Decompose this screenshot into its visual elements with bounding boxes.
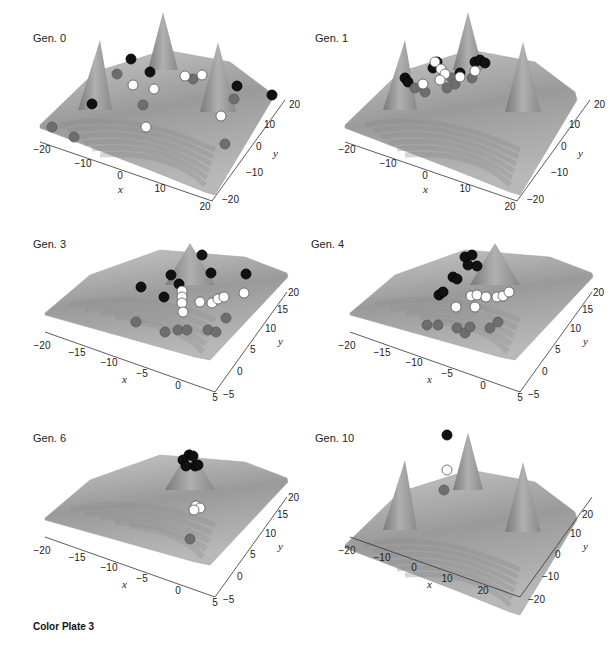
population-point [69, 132, 79, 142]
population-point [128, 80, 138, 90]
svg-text:20: 20 [504, 201, 516, 212]
population-point [480, 58, 490, 68]
surface-3d-chart: −20−15−10−505x−505101520y [0, 420, 305, 635]
svg-text:0: 0 [422, 170, 428, 181]
population-point [145, 67, 155, 77]
population-point [229, 94, 239, 104]
svg-text:5: 5 [517, 392, 523, 403]
peak-center [148, 12, 178, 70]
surface-plot-panel: −20−15−10−505x−505101520yGen. 6 [0, 420, 305, 630]
svg-text:−20: −20 [339, 340, 356, 351]
svg-text:0: 0 [175, 380, 181, 391]
y-axis-label: y [277, 335, 283, 347]
surface-plot-panel: −20−1001020x−20−1001020yGen. 10 [305, 420, 610, 630]
population-point [197, 250, 207, 260]
svg-text:−10: −10 [380, 158, 397, 169]
svg-text:15: 15 [277, 304, 289, 315]
population-point [267, 90, 277, 100]
population-point [465, 322, 475, 332]
svg-text:5: 5 [250, 549, 256, 560]
svg-text:5: 5 [250, 344, 256, 355]
svg-text:10: 10 [264, 119, 276, 130]
svg-text:−20: −20 [339, 545, 356, 556]
population-point [442, 465, 452, 475]
population-point [463, 260, 473, 270]
surface-3d-chart: −20−1001020x−20−1001020y [305, 420, 610, 635]
svg-text:20: 20 [288, 492, 300, 503]
population-point [470, 302, 480, 312]
svg-text:−5: −5 [223, 594, 235, 605]
population-point [472, 290, 482, 300]
population-point [467, 250, 477, 260]
generation-label: Gen. 3 [33, 238, 66, 250]
svg-text:−10: −10 [101, 357, 118, 368]
surface-plot-panel: −20−1001020x−20−1001020yGen. 1 [305, 0, 610, 210]
svg-text:20: 20 [289, 99, 301, 110]
svg-text:5: 5 [555, 344, 561, 355]
population-point [422, 320, 432, 330]
surface-3d-chart: −20−15−10−505x−505101520y [305, 215, 610, 430]
svg-text:−10: −10 [75, 158, 92, 169]
population-point [239, 288, 249, 298]
svg-text:0: 0 [480, 380, 486, 391]
svg-text:10: 10 [459, 183, 471, 194]
population-point [472, 261, 482, 271]
population-point [481, 292, 491, 302]
population-point [195, 297, 205, 307]
svg-text:15: 15 [582, 304, 594, 315]
x-axis-label: x [426, 578, 432, 590]
svg-text:5: 5 [212, 392, 218, 403]
population-point [193, 460, 203, 470]
svg-text:−10: −10 [406, 357, 423, 368]
population-point [451, 302, 461, 312]
x-axis-label: x [121, 373, 127, 385]
svg-text:−10: −10 [101, 562, 118, 573]
svg-text:0: 0 [555, 549, 561, 560]
generation-label: Gen. 6 [33, 432, 66, 444]
svg-text:−10: −10 [551, 167, 568, 178]
svg-text:−20: −20 [34, 340, 51, 351]
population-point [126, 54, 136, 64]
svg-text:−20: −20 [339, 144, 356, 155]
x-axis-label: x [117, 183, 123, 195]
svg-text:−20: −20 [34, 144, 51, 155]
population-point [455, 72, 465, 82]
population-point [181, 461, 191, 471]
population-point [173, 325, 183, 335]
svg-text:20: 20 [199, 201, 211, 212]
figure-caption: Color Plate 3 [33, 621, 94, 632]
population-point [241, 269, 251, 279]
population-point [160, 327, 170, 337]
svg-text:15: 15 [277, 509, 289, 520]
surface-plot-panel: −20−15−10−505x−505101520yGen. 4 [305, 215, 610, 425]
population-point [131, 317, 141, 327]
svg-text:10: 10 [265, 528, 277, 539]
population-point [439, 485, 449, 495]
population-point [442, 83, 452, 93]
svg-text:−15: −15 [374, 347, 391, 358]
x-axis-label: x [426, 373, 432, 385]
population-point [232, 81, 242, 91]
x-axis-label: x [121, 578, 127, 590]
svg-text:0: 0 [542, 366, 548, 377]
svg-text:0: 0 [561, 141, 567, 152]
population-point [219, 292, 229, 302]
population-point [166, 270, 176, 280]
population-point [138, 100, 148, 110]
population-point [197, 70, 207, 80]
svg-text:−10: −10 [246, 167, 263, 178]
svg-text:−20: −20 [527, 194, 544, 205]
svg-text:10: 10 [570, 323, 582, 334]
svg-text:0: 0 [237, 366, 243, 377]
svg-text:−10: −10 [542, 571, 559, 582]
population-point [452, 274, 462, 284]
svg-text:−20: −20 [34, 545, 51, 556]
population-point [442, 430, 452, 440]
svg-text:10: 10 [570, 528, 582, 539]
svg-text:0: 0 [117, 170, 123, 181]
svg-text:−15: −15 [69, 347, 86, 358]
svg-text:0: 0 [237, 571, 243, 582]
surface-plot-panel: −20−1001020x−20−1001020yGen. 0 [0, 0, 305, 210]
y-axis-label: y [577, 147, 583, 159]
svg-text:20: 20 [582, 509, 594, 520]
